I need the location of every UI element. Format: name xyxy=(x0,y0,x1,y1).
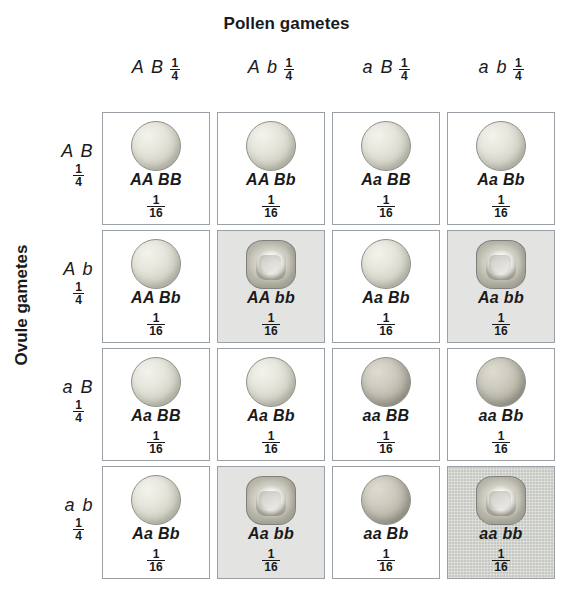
column-gamete-fraction-0: 1 4 xyxy=(170,57,181,82)
punnett-cell-r1-c2[interactable]: Aa Bb116 xyxy=(332,230,440,343)
punnett-cell-r0-c0[interactable]: AA BB116 xyxy=(102,112,210,225)
row-gamete-label-3: a b 1 4 xyxy=(26,496,94,542)
genotype-fraction-wrapper: 116 xyxy=(333,312,439,337)
genotype-fraction-wrapper: 116 xyxy=(218,548,324,573)
pollen-gametes-title: Pollen gametes xyxy=(0,14,573,34)
genotype-fraction: 116 xyxy=(147,430,164,455)
genotype-label: Aa bb xyxy=(448,289,554,307)
punnett-cell-r3-c3[interactable]: aa bb116 xyxy=(447,466,555,579)
genotype-label: AA Bb xyxy=(218,171,324,189)
round-seed-icon xyxy=(131,475,181,525)
round-seed-icon xyxy=(361,239,411,289)
round-seed-icon xyxy=(131,121,181,171)
row-gamete-label-0: A B 1 4 xyxy=(26,142,94,188)
genotype-fraction-wrapper: 116 xyxy=(218,312,324,337)
punnett-cell-r2-c2[interactable]: aa BB116 xyxy=(332,348,440,461)
column-gamete-label-0: A B 1 4 xyxy=(110,55,202,82)
seed-illustration-wrapper xyxy=(333,474,439,526)
punnett-cell-r2-c0[interactable]: Aa BB116 xyxy=(102,348,210,461)
seed-illustration-wrapper xyxy=(218,120,324,172)
genotype-fraction: 116 xyxy=(147,194,164,219)
genotype-fraction-wrapper: 116 xyxy=(333,430,439,455)
genotype-fraction-wrapper: 116 xyxy=(333,548,439,573)
round-seed-icon xyxy=(131,239,181,289)
genotype-fraction: 116 xyxy=(262,194,279,219)
genotype-fraction-wrapper: 116 xyxy=(103,548,209,573)
punnett-cell-r2-c1[interactable]: Aa Bb116 xyxy=(217,348,325,461)
round-seed-icon xyxy=(361,121,411,171)
genotype-fraction-wrapper: 116 xyxy=(448,548,554,573)
genotype-fraction-wrapper: 116 xyxy=(448,194,554,219)
genotype-fraction-wrapper: 116 xyxy=(333,194,439,219)
column-gamete-fraction-1: 1 4 xyxy=(284,57,295,82)
punnett-cell-r3-c1[interactable]: Aa bb116 xyxy=(217,466,325,579)
genotype-fraction: 116 xyxy=(377,194,394,219)
genotype-fraction: 116 xyxy=(377,312,394,337)
punnett-cell-r3-c0[interactable]: Aa Bb116 xyxy=(102,466,210,579)
genotype-fraction-wrapper: 116 xyxy=(448,430,554,455)
seed-illustration-wrapper xyxy=(448,356,554,408)
wrinkled-seed-icon xyxy=(476,476,526,525)
wrinkled-seed-icon xyxy=(246,476,296,525)
genotype-fraction: 116 xyxy=(262,548,279,573)
column-gamete-fraction-2: 1 4 xyxy=(399,57,410,82)
seed-illustration-wrapper xyxy=(448,120,554,172)
genotype-fraction: 116 xyxy=(147,312,164,337)
genotype-fraction: 116 xyxy=(262,430,279,455)
genotype-fraction: 116 xyxy=(147,548,164,573)
row-gamete-fraction-0: 1 4 xyxy=(73,163,84,188)
column-gamete-alleles-2: a B xyxy=(362,57,394,77)
genotype-label: AA BB xyxy=(103,171,209,189)
seed-illustration-wrapper xyxy=(103,474,209,526)
punnett-cell-r3-c2[interactable]: aa Bb116 xyxy=(332,466,440,579)
genotype-fraction-wrapper: 116 xyxy=(218,194,324,219)
seed-illustration-wrapper xyxy=(448,238,554,290)
column-gamete-alleles-3: a b xyxy=(478,57,508,77)
genotype-fraction: 116 xyxy=(492,194,509,219)
genotype-fraction: 116 xyxy=(262,312,279,337)
seed-illustration-wrapper xyxy=(218,356,324,408)
genotype-label: Aa BB xyxy=(333,171,439,189)
genotype-label: aa bb xyxy=(448,525,554,543)
punnett-cell-r0-c2[interactable]: Aa BB116 xyxy=(332,112,440,225)
genotype-label: Aa bb xyxy=(218,525,324,543)
punnett-cell-r0-c3[interactable]: Aa Bb116 xyxy=(447,112,555,225)
seed-illustration-wrapper xyxy=(103,120,209,172)
row-gamete-alleles-0: A B xyxy=(61,141,94,161)
punnett-cell-r1-c0[interactable]: AA Bb116 xyxy=(102,230,210,343)
row-gamete-label-1: A b 1 4 xyxy=(26,260,94,306)
punnett-cell-r1-c3[interactable]: Aa bb116 xyxy=(447,230,555,343)
genotype-label: aa Bb xyxy=(448,407,554,425)
seed-illustration-wrapper xyxy=(103,238,209,290)
genotype-label: Aa Bb xyxy=(448,171,554,189)
punnett-cell-r1-c1[interactable]: AA bb116 xyxy=(217,230,325,343)
seed-illustration-wrapper xyxy=(218,238,324,290)
wrinkled-seed-icon xyxy=(476,240,526,289)
round-seed-icon xyxy=(246,121,296,171)
punnett-square-grid: AA BB116AA Bb116Aa BB116Aa Bb116AA Bb116… xyxy=(102,112,564,588)
genotype-fraction: 116 xyxy=(377,430,394,455)
genotype-fraction: 116 xyxy=(492,548,509,573)
genotype-fraction: 116 xyxy=(492,430,509,455)
column-gamete-fraction-3: 1 4 xyxy=(513,57,524,82)
genotype-fraction: 116 xyxy=(377,548,394,573)
row-gamete-alleles-3: a b xyxy=(64,495,94,515)
genotype-label: Aa Bb xyxy=(103,525,209,543)
column-gamete-label-3: a b 1 4 xyxy=(455,55,547,82)
punnett-cell-r0-c1[interactable]: AA Bb116 xyxy=(217,112,325,225)
wrinkled-seed-icon xyxy=(246,240,296,289)
seed-illustration-wrapper xyxy=(103,356,209,408)
genotype-fraction: 116 xyxy=(492,312,509,337)
column-gamete-label-1: A b 1 4 xyxy=(225,55,317,82)
genotype-fraction-wrapper: 116 xyxy=(448,312,554,337)
column-gamete-alleles-0: A B xyxy=(132,57,165,77)
genotype-label: Aa BB xyxy=(103,407,209,425)
genotype-label: AA bb xyxy=(218,289,324,307)
row-gamete-alleles-1: A b xyxy=(63,259,94,279)
genotype-label: aa Bb xyxy=(333,525,439,543)
genotype-label: AA Bb xyxy=(103,289,209,307)
genotype-label: Aa Bb xyxy=(218,407,324,425)
punnett-cell-r2-c3[interactable]: aa Bb116 xyxy=(447,348,555,461)
round-seed-icon xyxy=(131,357,181,407)
genotype-fraction-wrapper: 116 xyxy=(218,430,324,455)
